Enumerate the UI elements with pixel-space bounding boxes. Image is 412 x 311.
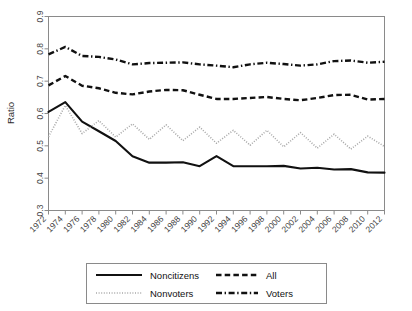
y-tick-label: 0.6: [35, 107, 45, 119]
x-tick-label: 1994: [212, 214, 233, 235]
x-tick-label: 2004: [296, 214, 317, 235]
x-tick-label: 1972: [27, 214, 48, 235]
x-tick-label: 2012: [363, 214, 384, 235]
x-tick-label: 1986: [145, 214, 166, 235]
x-tick-label: 1988: [162, 214, 183, 235]
y-tick-label: 0.5: [35, 140, 45, 152]
series-line-noncitizens: [49, 102, 385, 172]
series-line-all: [49, 76, 385, 100]
x-tick-label: 2000: [263, 214, 284, 235]
x-tick-label: 1990: [179, 214, 200, 235]
x-tick-label: 1992: [195, 214, 216, 235]
series-line-nonvoters: [49, 105, 385, 149]
x-tick-label: 2006: [313, 214, 334, 235]
legend-label-all: All: [266, 270, 277, 281]
x-tick-label: 1978: [78, 214, 99, 235]
x-axis: 1972197419761978198019821984198619881990…: [27, 211, 384, 235]
chart-legend: Noncitizens All Nonvoters Voters: [87, 264, 327, 304]
x-tick-label: 2002: [279, 214, 300, 235]
series-group: [49, 47, 385, 173]
y-tick-label: 0.4: [35, 172, 45, 184]
x-tick-label: 1984: [128, 214, 149, 235]
chart-figure: 0.30.40.50.60.70.80.9 197219741976197819…: [0, 0, 412, 311]
y-tick-label: 0.7: [35, 75, 45, 87]
x-tick-label: 1996: [229, 214, 250, 235]
x-tick-label: 1982: [111, 214, 132, 235]
y-axis: 0.30.40.50.60.70.80.9: [35, 10, 49, 216]
series-line-voters: [49, 47, 385, 67]
x-tick-label: 1980: [95, 214, 116, 235]
x-tick-label: 2010: [347, 214, 368, 235]
x-tick-label: 1976: [61, 214, 82, 235]
y-tick-label: 0.8: [35, 43, 45, 55]
y-tick-label: 0.9: [35, 10, 45, 22]
x-tick-label: 1974: [44, 214, 65, 235]
legend-label-voters: Voters: [266, 288, 293, 299]
legend-label-nonvoters: Nonvoters: [150, 288, 194, 299]
y-axis-title: Ratio: [5, 102, 16, 124]
x-tick-label: 2008: [330, 214, 351, 235]
chart-svg: 0.30.40.50.60.70.80.9 197219741976197819…: [0, 0, 412, 311]
legend-label-noncitizens: Noncitizens: [150, 270, 199, 281]
plot-frame: [49, 17, 385, 211]
x-tick-label: 1998: [246, 214, 267, 235]
